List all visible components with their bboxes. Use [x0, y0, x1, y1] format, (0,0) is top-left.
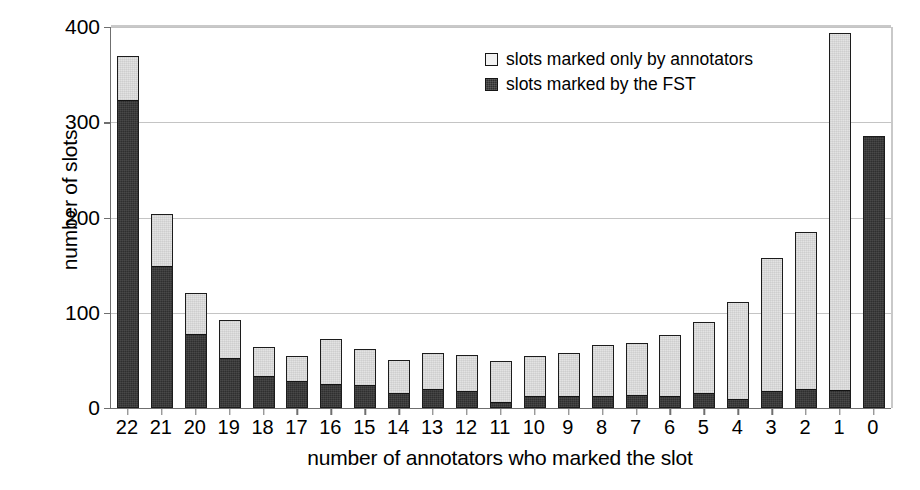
bar-segment-annotators-only	[491, 362, 511, 402]
y-axis-tick-label: 400	[65, 15, 100, 39]
bar-segment-annotators-only	[152, 215, 172, 266]
bar-segment-fst	[694, 393, 714, 407]
x-axis-tick-label: 5	[686, 416, 720, 439]
bar-segment-annotators-only	[423, 354, 443, 389]
bar-column	[111, 27, 145, 408]
bar-column	[450, 27, 484, 408]
stacked-bar	[253, 347, 275, 408]
x-axis-tick	[331, 408, 332, 415]
bar-segment-fst	[254, 376, 274, 407]
x-axis-tick	[602, 408, 603, 415]
bar-segment-annotators-only	[627, 344, 647, 395]
x-axis-tick	[365, 408, 366, 415]
x-axis-tick	[670, 408, 671, 415]
legend-label: slots marked only by annotators	[506, 47, 753, 72]
bar-column	[281, 27, 315, 408]
x-axis-tick-label: 21	[144, 416, 178, 439]
bar-segment-annotators-only	[118, 57, 138, 101]
bar-segment-annotators-only	[355, 350, 375, 385]
bar-column	[213, 27, 247, 408]
x-axis-tick-label: 15	[347, 416, 381, 439]
bar-segment-annotators-only	[694, 323, 714, 393]
stacked-bar	[659, 335, 681, 408]
x-axis-tick	[229, 408, 230, 415]
y-axis-tick	[104, 408, 111, 409]
x-axis-tick-label: 2	[788, 416, 822, 439]
bar-column	[314, 27, 348, 408]
x-axis-tick-label: 13	[415, 416, 449, 439]
bar-segment-fst	[593, 396, 613, 407]
x-axis-tick	[127, 408, 128, 415]
x-axis-tick-label: 9	[551, 416, 585, 439]
stacked-bar	[795, 232, 817, 408]
bar-segment-annotators-only	[796, 233, 816, 389]
bar-segment-fst	[796, 389, 816, 407]
stacked-bar	[185, 293, 207, 408]
bar-column	[755, 27, 789, 408]
bar-segment-annotators-only	[186, 294, 206, 334]
legend-label: slots marked by the FST	[506, 72, 696, 97]
y-axis-tick	[104, 122, 111, 123]
x-axis-tick	[466, 408, 467, 415]
legend-entry: slots marked by the FST	[485, 72, 753, 97]
x-axis-tick-label: 1	[822, 416, 856, 439]
bar-column	[145, 27, 179, 408]
x-axis-tick	[263, 408, 264, 415]
stacked-bar	[693, 322, 715, 408]
y-axis-tick	[104, 313, 111, 314]
y-axis-tick-label: 100	[65, 301, 100, 325]
x-axis-tick	[873, 408, 874, 415]
stacked-bar	[761, 258, 783, 408]
stacked-bar	[286, 356, 308, 408]
bar-segment-fst	[287, 381, 307, 407]
bar-segment-fst	[423, 389, 443, 407]
stacked-bar	[626, 343, 648, 408]
bar-column	[789, 27, 823, 408]
stacked-bar	[117, 56, 139, 408]
x-axis-tick	[839, 408, 840, 415]
x-axis-tick	[534, 408, 535, 415]
x-axis-tick-label: 11	[483, 416, 517, 439]
stacked-bar	[524, 356, 546, 408]
stacked-bar	[829, 33, 851, 408]
y-axis-tick	[104, 27, 111, 28]
x-axis-tick-label: 16	[313, 416, 347, 439]
bar-segment-annotators-only	[254, 348, 274, 376]
x-axis-tick	[568, 408, 569, 415]
x-axis-tick	[771, 408, 772, 415]
x-axis-tick-label: 19	[212, 416, 246, 439]
stacked-bar-chart-figure: number of slots 0100200300400 2221201918…	[0, 0, 920, 490]
bar-segment-annotators-only	[220, 321, 240, 357]
stacked-bar	[422, 353, 444, 408]
stacked-bar	[388, 360, 410, 408]
x-axis-tick-label: 7	[619, 416, 653, 439]
y-axis-tick-label: 300	[65, 110, 100, 134]
bar-column	[348, 27, 382, 408]
x-axis-tick	[704, 408, 705, 415]
bar-column	[247, 27, 281, 408]
x-axis-tick	[161, 408, 162, 415]
x-axis-tick	[195, 408, 196, 415]
bar-column	[857, 27, 891, 408]
stacked-bar	[456, 355, 478, 408]
stacked-bar	[219, 320, 241, 408]
x-axis-tick	[636, 408, 637, 415]
stacked-bar	[558, 353, 580, 408]
bar-segment-annotators-only	[728, 303, 748, 398]
x-axis-tick-label: 3	[754, 416, 788, 439]
legend-swatch-dark-icon	[485, 78, 498, 91]
x-axis-tick-labels: 222120191817161514131211109876543210	[110, 416, 890, 439]
bar-segment-fst	[525, 396, 545, 407]
x-axis-tick-label: 22	[110, 416, 144, 439]
x-axis-tick-label: 8	[585, 416, 619, 439]
x-axis-tick	[738, 408, 739, 415]
bar-segment-fst	[389, 393, 409, 407]
stacked-bar	[863, 136, 885, 408]
bar-segment-annotators-only	[457, 356, 477, 392]
legend-entry: slots marked only by annotators	[485, 47, 753, 72]
bar-segment-annotators-only	[389, 361, 409, 393]
x-axis-tick	[805, 408, 806, 415]
bar-segment-annotators-only	[762, 259, 782, 392]
bar-segment-annotators-only	[830, 34, 850, 390]
bar-segment-fst	[355, 385, 375, 407]
